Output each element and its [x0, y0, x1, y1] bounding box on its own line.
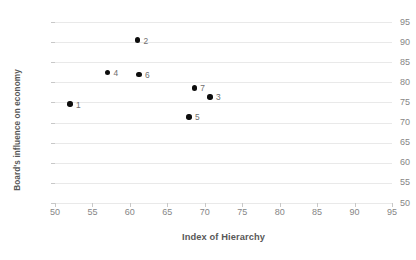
y-tick-mark — [51, 123, 55, 124]
data-point — [186, 114, 191, 119]
y-tick-label: 65 — [370, 138, 416, 147]
data-point — [207, 94, 212, 99]
data-point-label: 2 — [143, 37, 148, 45]
x-tick-label: 75 — [227, 208, 257, 217]
data-point — [136, 72, 141, 77]
x-tick-label: 65 — [152, 208, 182, 217]
y-tick-label: 70 — [370, 118, 416, 127]
data-point-label: 6 — [145, 71, 150, 79]
y-axis-title: Board's influence on economy — [6, 0, 28, 260]
plot-area — [55, 22, 392, 203]
gridline-horizontal — [55, 82, 392, 83]
y-tick-label: 75 — [370, 98, 416, 107]
gridline-horizontal — [55, 183, 392, 184]
x-tick-label: 70 — [190, 208, 220, 217]
y-tick-mark — [51, 102, 55, 103]
x-tick-label: 90 — [340, 208, 370, 217]
y-tick-mark — [51, 163, 55, 164]
y-tick-label: 85 — [370, 58, 416, 67]
data-point-label: 4 — [113, 69, 118, 77]
y-tick-mark — [51, 22, 55, 23]
gridline-horizontal — [55, 163, 392, 164]
y-tick-mark — [51, 82, 55, 83]
x-tick-label: 85 — [302, 208, 332, 217]
scatter-chart: Board's influence on economy 50556065707… — [0, 0, 416, 260]
x-tick-label: 95 — [377, 208, 407, 217]
gridline-horizontal — [55, 42, 392, 43]
x-tick-label: 80 — [265, 208, 295, 217]
gridline-horizontal — [55, 102, 392, 103]
x-axis-title: Index of Hierarchy — [55, 232, 392, 242]
gridline-horizontal — [55, 123, 392, 124]
y-tick-label: 60 — [370, 158, 416, 167]
data-point — [67, 101, 72, 106]
data-point-label: 1 — [76, 101, 81, 109]
data-point-label: 7 — [200, 84, 205, 92]
data-point-label: 5 — [195, 113, 200, 121]
data-point — [135, 37, 140, 42]
gridline-horizontal — [55, 22, 392, 23]
y-tick-label: 95 — [370, 18, 416, 27]
x-tick-label: 60 — [115, 208, 145, 217]
gridline-horizontal — [55, 62, 392, 63]
data-point — [192, 85, 197, 90]
x-tick-label: 50 — [40, 208, 70, 217]
y-tick-label: 55 — [370, 178, 416, 187]
y-tick-label: 90 — [370, 38, 416, 47]
y-tick-mark — [51, 183, 55, 184]
y-tick-mark — [51, 143, 55, 144]
gridline-horizontal — [55, 143, 392, 144]
y-tick-mark — [51, 62, 55, 63]
data-point-label: 3 — [216, 93, 221, 101]
y-tick-mark — [51, 42, 55, 43]
y-tick-label: 80 — [370, 78, 416, 87]
x-tick-label: 55 — [77, 208, 107, 217]
gridline-horizontal — [55, 203, 392, 204]
